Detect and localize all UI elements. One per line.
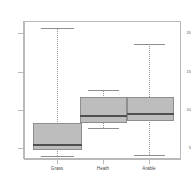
whisker-cap-upper — [134, 44, 165, 45]
median-line — [127, 113, 174, 115]
boxplot-figure: 5101520 GrassHeathArable — [0, 0, 191, 183]
plot-area — [24, 21, 181, 159]
boxplot-group — [0, 0, 191, 183]
box-rect — [127, 97, 174, 121]
boxplot-series-layer — [0, 0, 191, 183]
whisker-cap-lower — [134, 155, 165, 156]
